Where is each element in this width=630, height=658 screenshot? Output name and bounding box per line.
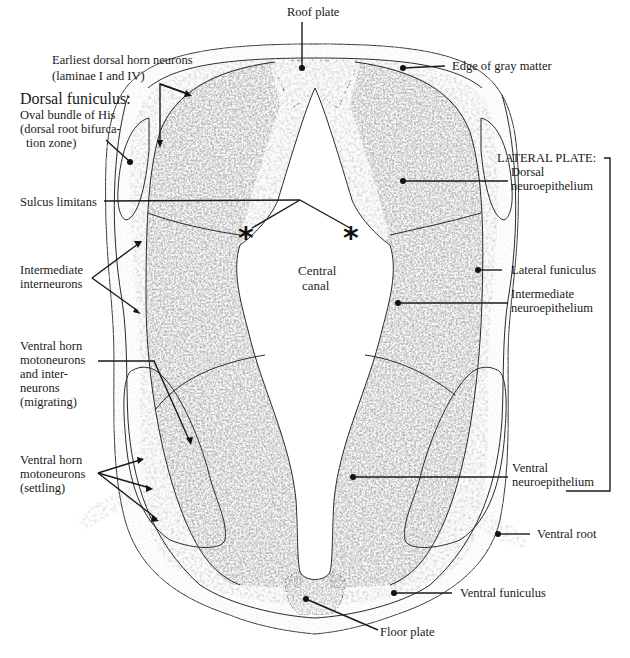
lateral-plate-bracket: [566, 158, 610, 491]
label-dorsal-funiculus-desc-2: (dorsal root bifurca-: [20, 122, 121, 136]
spinal-cord-diagram: Roof plate Edge of gray matter Earliest …: [0, 0, 630, 658]
label-dorsal-funiculus-desc-1: Oval bundle of His: [20, 108, 116, 122]
label-dorsal-funiculus-title: Dorsal funiculus:: [20, 90, 131, 107]
label-lateral-plate: LATERAL PLATE:: [497, 151, 596, 165]
label-ventral-ne-2: neuroepithelium: [512, 475, 594, 489]
label-ventral-root: Ventral root: [537, 527, 597, 541]
label-intermediate-ne-1: Intermediate: [511, 287, 575, 301]
label-vh-settling-2: motoneurons: [20, 467, 85, 481]
label-edge-of-gray-matter: Edge of gray matter: [452, 59, 552, 73]
label-lateral-funiculus: Lateral funiculus: [511, 263, 596, 277]
label-dorsal-ne-2: neuroepithelium: [511, 179, 593, 193]
label-dorsal-funiculus-desc-3: tion zone): [26, 136, 76, 150]
label-vh-migrating-4: neurons: [20, 381, 60, 395]
label-central-canal-2: canal: [302, 278, 330, 293]
label-vh-migrating-2: motoneurons: [20, 353, 85, 367]
label-vh-migrating-5: (migrating): [20, 395, 77, 409]
label-dorsal-ne-1: Dorsal: [511, 165, 545, 179]
label-earliest-dorsal-1: Earliest dorsal horn neurons: [52, 53, 193, 67]
label-roof-plate: Roof plate: [287, 5, 340, 19]
label-ventral-funiculus: Ventral funiculus: [460, 586, 546, 600]
label-ventral-ne-1: Ventral: [512, 461, 549, 475]
roof-plate-dot: [299, 65, 305, 71]
sulcus-marker-right: *: [343, 220, 359, 255]
label-sulcus-limitans: Sulcus limitans: [20, 195, 97, 209]
label-intermediate-ne-2: neuroepithelium: [511, 301, 593, 315]
label-earliest-dorsal-2: (laminae I and IV): [52, 69, 145, 83]
label-vh-settling-1: Ventral horn: [20, 453, 83, 467]
label-intermediate-interneurons-1: Intermediate: [20, 263, 84, 277]
label-vh-migrating-1: Ventral horn: [20, 339, 83, 353]
label-vh-migrating-3: and inter-: [20, 367, 68, 381]
sulcus-marker-left: *: [238, 220, 254, 255]
dorsal-funiculus-dot: [127, 159, 133, 165]
label-central-canal-1: Central: [298, 263, 337, 278]
label-vh-settling-3: (settling): [20, 481, 65, 495]
label-intermediate-interneurons-2: interneurons: [20, 277, 83, 291]
label-floor-plate: Floor plate: [380, 625, 435, 639]
